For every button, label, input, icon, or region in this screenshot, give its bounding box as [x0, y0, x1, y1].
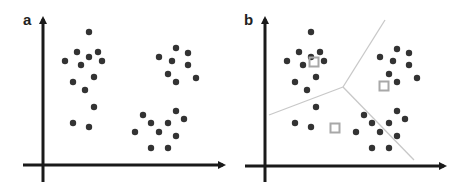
data-point [95, 49, 101, 55]
centroid-square-icon [380, 82, 389, 91]
data-point [300, 62, 306, 68]
data-point [308, 124, 314, 130]
figure-canvas: a b [0, 0, 470, 190]
data-point [369, 145, 375, 151]
data-point [99, 58, 105, 64]
cluster-boundary-line [343, 20, 385, 87]
cluster-boundary-line [343, 87, 414, 160]
data-point [361, 112, 367, 118]
data-point [91, 74, 97, 80]
data-point [394, 79, 400, 85]
data-point [414, 75, 420, 81]
data-point [173, 108, 179, 114]
data-point [308, 29, 314, 35]
data-point [86, 54, 92, 60]
data-point [148, 120, 154, 126]
data-point [292, 79, 298, 85]
data-point [353, 129, 359, 135]
data-point [185, 62, 191, 68]
data-point [169, 58, 175, 64]
data-point [70, 120, 76, 126]
data-point [165, 120, 171, 126]
data-point [86, 124, 92, 130]
data-point [313, 104, 319, 110]
data-point [173, 45, 179, 51]
data-point [406, 50, 412, 56]
data-point [173, 79, 179, 85]
data-point [62, 58, 68, 64]
data-point [390, 58, 396, 64]
data-point [74, 49, 80, 55]
panel-b-label: b [244, 11, 253, 28]
data-point [386, 71, 392, 77]
data-point [173, 133, 179, 139]
data-point [156, 54, 162, 60]
data-point [377, 129, 383, 135]
data-point [165, 71, 171, 77]
data-point [148, 145, 154, 151]
data-point [284, 58, 290, 64]
data-point [140, 112, 146, 118]
panel-a: a [23, 11, 223, 182]
data-point [386, 145, 392, 151]
data-point [70, 79, 76, 85]
data-point [369, 120, 375, 126]
data-point [304, 87, 310, 93]
data-point [193, 75, 199, 81]
panel-b-boundaries [269, 20, 414, 160]
data-point [86, 29, 92, 35]
data-point [321, 58, 327, 64]
panel-a-points [62, 29, 199, 151]
data-point [165, 145, 171, 151]
data-point [313, 74, 319, 80]
centroid-square-icon [331, 124, 340, 133]
panel-a-axes [23, 19, 223, 182]
data-point [78, 62, 84, 68]
data-point [317, 49, 323, 55]
panel-b-axes [245, 19, 444, 182]
panel-b-points [284, 29, 420, 151]
data-point [292, 120, 298, 126]
data-point [394, 46, 400, 52]
data-point [296, 49, 302, 55]
data-point [377, 54, 383, 60]
data-point [402, 116, 408, 122]
data-point [82, 87, 88, 93]
data-point [386, 120, 392, 126]
data-point [91, 104, 97, 110]
data-point [156, 129, 162, 135]
data-point [185, 50, 191, 56]
panel-b: b [244, 11, 444, 182]
data-point [181, 116, 187, 122]
panel-a-label: a [23, 11, 32, 28]
data-point [406, 62, 412, 68]
data-point [394, 133, 400, 139]
data-point [394, 108, 400, 114]
data-point [132, 129, 138, 135]
